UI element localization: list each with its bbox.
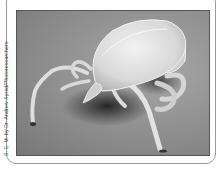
photo-credit: S. E. M. by Dr. Andrew Syred/Photoresear… <box>3 10 9 156</box>
tick-illustration <box>17 11 210 156</box>
tick-micrograph <box>16 10 210 156</box>
